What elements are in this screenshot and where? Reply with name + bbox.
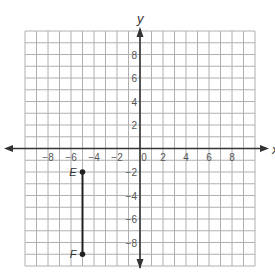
point-label-e: E — [69, 166, 77, 178]
x-tick-label: 0 — [141, 152, 147, 163]
y-tick-label: 8 — [131, 50, 137, 61]
x-tick-label: 6 — [206, 152, 212, 163]
point-f — [80, 251, 86, 257]
y-axis-up-arrow-icon — [137, 27, 144, 37]
y-axis-down-arrow-icon — [137, 259, 144, 269]
y-tick-label: 4 — [131, 97, 137, 108]
point-e — [80, 169, 86, 175]
x-tick-label: −2 — [111, 152, 123, 163]
x-tick-label: −6 — [65, 152, 77, 163]
y-tick-label: −2 — [126, 167, 138, 178]
y-tick-label: 2 — [131, 120, 137, 131]
x-tick-label: 2 — [160, 152, 166, 163]
x-tick-label: −8 — [42, 152, 54, 163]
axes — [4, 27, 269, 269]
x-tick-label: 8 — [229, 152, 235, 163]
x-tick-label: 4 — [183, 152, 189, 163]
y-tick-label: 6 — [131, 73, 137, 84]
y-tick-label: −4 — [126, 191, 138, 202]
x-axis-right-arrow-icon — [260, 145, 269, 152]
x-axis-label: x — [271, 142, 275, 157]
y-tick-label: −8 — [126, 238, 138, 249]
plotted-data: EF — [69, 166, 85, 260]
x-axis-left-arrow-icon — [4, 145, 13, 152]
x-tick-label: −4 — [88, 152, 100, 163]
coordinate-plane: −8−6−4−2024688642−2−4−6−8 EF x y — [0, 0, 275, 279]
y-axis-label: y — [136, 11, 145, 26]
y-tick-label: −6 — [126, 214, 138, 225]
